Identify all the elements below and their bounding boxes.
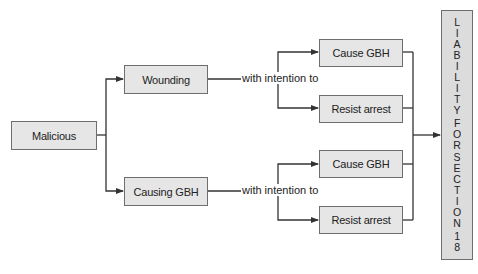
node-causing-resist-arrest: Resist arrest: [319, 206, 403, 234]
result-letter: R: [453, 140, 460, 151]
node-malicious: Malicious: [11, 121, 97, 150]
node-wounding-label: Wounding: [142, 74, 190, 86]
node-liability-section-18: LIABILITYFORSECTION18: [441, 10, 473, 260]
node-label: Resist arrest: [331, 214, 390, 226]
node-label: Resist arrest: [331, 103, 390, 115]
edge-label-wounding: with intention to: [241, 72, 319, 84]
connector-root-to-wounding: [106, 79, 123, 135]
edge-label-causing: with intention to: [241, 184, 319, 196]
node-causing-gbh-label: Causing GBH: [133, 186, 198, 198]
node-label: Cause GBH: [333, 158, 390, 170]
node-malicious-label: Malicious: [32, 130, 76, 142]
node-wounding: Wounding: [124, 65, 208, 94]
result-letter: Y: [454, 105, 461, 116]
node-causing-cause-gbh: Cause GBH: [319, 150, 403, 178]
node-wounding-resist-arrest: Resist arrest: [319, 95, 403, 123]
node-causing-gbh: Causing GBH: [124, 177, 208, 206]
result-letter: N: [453, 218, 460, 229]
node-wounding-cause-gbh: Cause GBH: [319, 39, 403, 67]
result-letter: 8: [454, 242, 460, 253]
node-label: Cause GBH: [333, 47, 390, 59]
connector-root-to-causing: [106, 135, 123, 191]
